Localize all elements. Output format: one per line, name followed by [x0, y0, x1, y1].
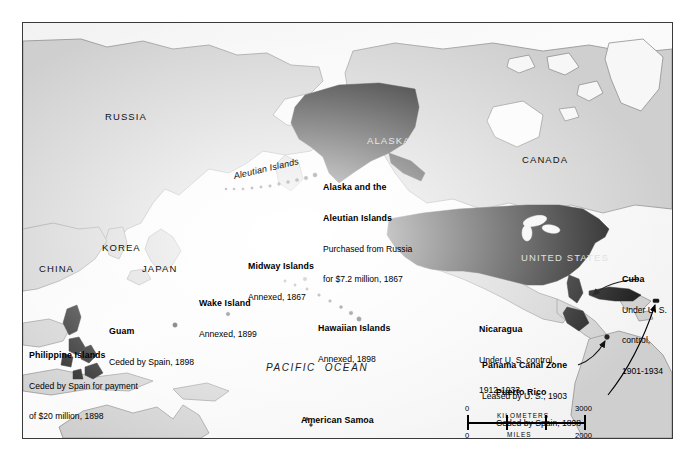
scale-value-km-start: 0 [465, 404, 469, 413]
annotation-philippines: Philippine Islands Ceded by Spain for pa… [29, 330, 138, 439]
annotation-midway-title: Midway Islands [248, 261, 314, 271]
annotation-puerto-rico-title: Puerto Rico [496, 387, 581, 397]
country-label-united-states: UNITED STATES [521, 252, 609, 263]
annotation-wake-line-1: Annexed, 1899 [199, 329, 257, 339]
map-plate: RUSSIA KOREA CHINA JAPAN ALASKA CANADA U… [22, 22, 673, 439]
annotation-alaska-title-2: Aleutian Islands [323, 213, 412, 223]
country-label-japan: JAPAN [142, 263, 177, 274]
annotation-alaska-line-1: Purchased from Russia [323, 244, 412, 254]
annotation-wake: Wake Island Annexed, 1899 [199, 278, 257, 359]
annotation-philippines-line-2: of $20 million, 1898 [29, 411, 138, 421]
scale-value-mi-end: 2000 [575, 431, 592, 439]
country-label-alaska: ALASKA [367, 135, 411, 146]
scale-value-km-end: 3000 [575, 404, 592, 413]
scale-value-mi-start: 0 [465, 431, 469, 439]
scale-tick-mi-2000 [584, 422, 586, 430]
country-label-canada: CANADA [522, 154, 568, 165]
country-label-korea: KOREA [102, 242, 141, 253]
annotation-american-samoa: American Samoa U. S. possession by conve… [301, 395, 398, 439]
country-label-russia: RUSSIA [105, 111, 147, 122]
annotation-philippines-title: Philippine Islands [29, 350, 138, 360]
annotation-wake-title: Wake Island [199, 298, 257, 308]
annotation-cuba-line-3: 1901-1934 [622, 366, 667, 376]
scale-tick-mi-1000 [506, 422, 508, 430]
country-label-china: CHINA [39, 263, 74, 274]
historical-map-figure: RUSSIA KOREA CHINA JAPAN ALASKA CANADA U… [0, 0, 695, 461]
scale-caption-kilometers: KILOMETERS [497, 412, 549, 419]
scale-caption-miles: MILES [507, 431, 532, 438]
scale-tick-mi-2000-mid [545, 422, 547, 430]
annotation-alaska-line-2: for $7.2 million, 1867 [323, 274, 412, 284]
map-scale-bar: KILOMETERS MILES 0 3000 0 2000 [467, 413, 617, 439]
annotation-alaska-title-1: Alaska and the [323, 182, 412, 192]
annotation-midway: Midway Islands Annexed, 1867 [248, 241, 314, 322]
annotation-nicaragua-title: Nicaragua [479, 324, 554, 334]
annotation-hawaii-title: Hawaiian Islands [318, 323, 391, 333]
annotation-midway-line-1: Annexed, 1867 [248, 292, 314, 302]
annotation-cuba-title: Cuba [622, 274, 667, 284]
scale-bar-line [467, 422, 585, 424]
annotation-hawaii: Hawaiian Islands Annexed, 1898 [318, 303, 391, 384]
annotation-cuba: Cuba Under U. S. control, 1901-1934 [622, 254, 667, 396]
annotation-hawaii-line-1: Annexed, 1898 [318, 354, 391, 364]
annotation-alaska: Alaska and the Aleutian Islands Purchase… [323, 162, 412, 304]
annotation-cuba-line-1: Under U. S. [622, 305, 667, 315]
annotation-american-samoa-title: American Samoa [301, 415, 398, 425]
scale-tick-mi-0 [467, 422, 469, 430]
annotation-philippines-line-1: Ceded by Spain for payment [29, 381, 138, 391]
panama-canal-zone-territory [605, 335, 610, 340]
annotation-cuba-line-2: control, [622, 335, 667, 345]
